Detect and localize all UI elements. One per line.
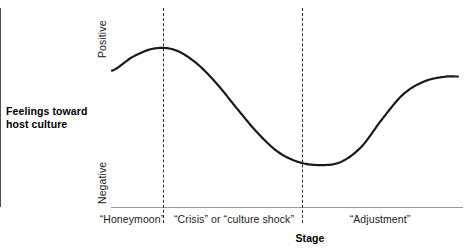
stage-divider-honeymoon-crisis: [163, 8, 164, 223]
stage-label-crisis: “Crisis” or “culture shock”: [170, 213, 298, 225]
y-axis-line: [0, 8, 1, 207]
x-axis-title: Stage: [255, 232, 365, 244]
stage-divider-crisis-adjustment: [302, 8, 303, 223]
y-axis-title-line2: host culture: [6, 118, 98, 131]
y-axis-title: Feelings toward host culture: [6, 105, 98, 131]
y-axis-label-positive: Positive: [96, 20, 108, 58]
y-axis-label-negative: Negative: [96, 162, 108, 204]
stage-label-honeymoon: “Honeymoon”: [97, 213, 167, 225]
stage-label-adjustment: “Adjustment”: [330, 213, 430, 225]
y-axis-title-line1: Feelings toward: [6, 105, 98, 118]
culture-shock-u-curve-chart: Feelings toward host culture Positive Ne…: [0, 0, 466, 251]
